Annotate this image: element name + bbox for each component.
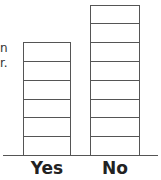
unit-cell xyxy=(91,81,139,100)
unit-cell xyxy=(91,62,139,81)
unit-cell xyxy=(24,100,70,119)
unit-cell xyxy=(91,137,139,156)
label-yes: Yes xyxy=(22,158,72,178)
x-axis-line xyxy=(3,155,158,156)
unit-cell xyxy=(24,43,70,62)
bar-yes xyxy=(23,42,71,155)
bar-no xyxy=(90,5,140,155)
unit-cell xyxy=(24,81,70,100)
unit-cell xyxy=(91,100,139,119)
unit-cell xyxy=(91,6,139,25)
cropped-text-line-2: r. xyxy=(0,57,8,69)
unit-cell xyxy=(91,118,139,137)
unit-cell xyxy=(24,137,70,156)
unit-cell xyxy=(91,24,139,43)
cropped-text-line-1: n xyxy=(0,42,8,54)
unit-cell xyxy=(24,118,70,137)
label-no: No xyxy=(90,158,140,178)
unit-cell xyxy=(91,43,139,62)
unit-cell xyxy=(24,62,70,81)
